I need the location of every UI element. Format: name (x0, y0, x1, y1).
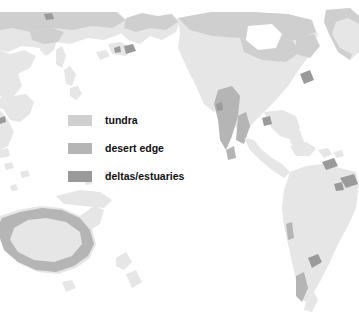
legend-item-tundra: tundra (68, 113, 218, 127)
map-figure: .land { fill:#e6e6e6; } .tund { fill:#cf… (0, 0, 359, 323)
map-legend: tundra desert edge deltas/estuaries (68, 113, 218, 183)
legend-swatch-deltas-estuaries (68, 171, 92, 182)
legend-label-desert-edge: desert edge (105, 143, 164, 154)
legend-item-desert-edge: desert edge (68, 141, 218, 155)
legend-label-deltas-estuaries: deltas/estuaries (105, 171, 184, 182)
legend-item-deltas-estuaries: deltas/estuaries (68, 169, 218, 183)
legend-swatch-desert-edge (68, 143, 92, 154)
legend-swatch-tundra (68, 115, 92, 126)
legend-label-tundra: tundra (105, 115, 138, 126)
